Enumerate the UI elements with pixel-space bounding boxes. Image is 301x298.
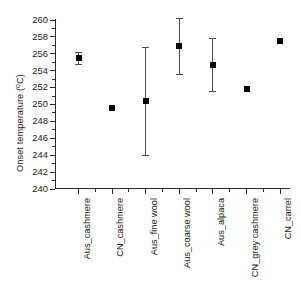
- x-tick-cn-carrel: [280, 189, 281, 194]
- x-tick-label-aus-alpaca: Aus_alpaca: [217, 198, 226, 246]
- y-tick-minor-241: [52, 180, 55, 181]
- x-axis-line: [55, 188, 290, 189]
- y-tick-252: [50, 87, 55, 88]
- y-axis-line: [55, 19, 56, 189]
- y-axis-title-container: Onset temperature (oC): [0, 0, 20, 195]
- y-tick-258: [50, 36, 55, 37]
- chart-figure: Onset temperature (oC) 26025825625425225…: [0, 0, 301, 298]
- x-tick-aus-fine-wool: [145, 189, 146, 194]
- y-tick-256: [50, 53, 55, 54]
- y-tick-246: [50, 138, 55, 139]
- data-point-cn-grey-cashmere: [244, 86, 250, 92]
- error-bar-cap-upper-aus-cashmere: [75, 52, 82, 53]
- degree-symbol: o: [14, 84, 21, 88]
- y-tick-label-246: 246: [32, 133, 48, 142]
- x-tick-minor-3: [196, 189, 197, 192]
- error-bar-cap-lower-aus-alpaca: [209, 91, 216, 92]
- y-tick-label-254: 254: [32, 66, 48, 75]
- y-tick-minor-243: [52, 163, 55, 164]
- y-tick-minor-249: [52, 112, 55, 113]
- x-tick-cn-grey-cashmere: [246, 189, 247, 194]
- y-tick-label-260: 260: [32, 15, 48, 24]
- x-tick-minor-0: [95, 189, 96, 192]
- x-tick-label-cn-carrel: CN_carrel: [284, 198, 293, 239]
- y-tick-label-242: 242: [32, 167, 48, 176]
- error-bar-cap-lower-aus-coarse-wool: [176, 74, 183, 75]
- y-tick-260: [50, 20, 55, 21]
- y-tick-label-240: 240: [32, 184, 48, 193]
- y-tick-250: [50, 104, 55, 105]
- x-tick-cn-cashmere: [112, 189, 113, 194]
- y-tick-minor-253: [52, 79, 55, 80]
- data-point-aus-cashmere: [76, 55, 82, 61]
- y-tick-label-252: 252: [32, 82, 48, 91]
- y-tick-label-256: 256: [32, 49, 48, 58]
- y-tick-242: [50, 172, 55, 173]
- y-tick-label-248: 248: [32, 116, 48, 125]
- y-tick-minor-245: [52, 146, 55, 147]
- x-tick-label-aus-fine-wool: Aus_fine wool: [150, 198, 159, 255]
- x-tick-label-aus-cashmere: Aus_cashmere: [83, 198, 92, 259]
- y-tick-minor-259: [52, 28, 55, 29]
- y-tick-minor-247: [52, 129, 55, 130]
- y-tick-244: [50, 155, 55, 156]
- data-point-cn-cashmere: [109, 105, 115, 111]
- y-tick-minor-257: [52, 45, 55, 46]
- x-tick-label-cn-grey-cashmere: CN_grey cashmere: [251, 198, 260, 277]
- y-tick-240: [50, 189, 55, 190]
- x-tick-aus-alpaca: [212, 189, 213, 194]
- error-bar-cap-lower-aus-fine-wool: [142, 155, 149, 156]
- data-point-aus-fine-wool: [143, 98, 149, 104]
- y-axis-title-text: Onset temperature (: [15, 88, 25, 172]
- y-axis-title: Onset temperature (oC): [14, 74, 25, 172]
- y-tick-label-258: 258: [32, 32, 48, 41]
- x-tick-minor-4: [229, 189, 230, 192]
- data-point-cn-carrel: [277, 38, 283, 44]
- x-tick-minor-2: [162, 189, 163, 192]
- error-bar-cap-lower-aus-cashmere: [75, 64, 82, 65]
- x-tick-label-cn-cashmere: CN_cashmere: [116, 198, 125, 257]
- error-bar-cap-upper-aus-fine-wool: [142, 47, 149, 48]
- y-axis-title-tail: C): [15, 74, 25, 84]
- data-point-aus-alpaca: [210, 62, 216, 68]
- data-point-aus-coarse-wool: [176, 43, 182, 49]
- y-tick-label-244: 244: [32, 150, 48, 159]
- y-tick-254: [50, 70, 55, 71]
- y-tick-label-250: 250: [32, 99, 48, 108]
- x-tick-minor-5: [263, 189, 264, 192]
- x-tick-aus-coarse-wool: [179, 189, 180, 194]
- y-tick-248: [50, 121, 55, 122]
- x-tick-minor-1: [128, 189, 129, 192]
- error-bar-cap-upper-aus-alpaca: [209, 38, 216, 39]
- y-tick-minor-251: [52, 96, 55, 97]
- y-tick-minor-255: [52, 62, 55, 63]
- x-tick-aus-cashmere: [78, 189, 79, 194]
- error-bar-cap-upper-aus-coarse-wool: [176, 18, 183, 19]
- x-tick-label-aus-coarse-wool: Aus_coarse wool: [183, 198, 192, 268]
